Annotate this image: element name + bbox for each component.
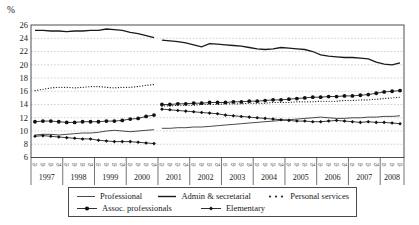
legend-item-personal-services: Personal services [266,191,349,201]
svg-text:2006: 2006 [325,173,341,182]
svg-text:Q1: Q1 [350,162,355,167]
svg-text:Q2: Q2 [263,162,268,167]
svg-text:2008: 2008 [384,173,400,182]
svg-text:Q4: Q4 [183,162,188,167]
svg-text:Q1: Q1 [223,162,228,167]
svg-text:1999: 1999 [102,173,118,182]
svg-text:Q3: Q3 [144,162,149,167]
svg-text:Q2: Q2 [167,162,172,167]
svg-text:Q2: Q2 [72,162,77,167]
svg-text:Q3: Q3 [366,162,371,167]
legend-label-personal-services: Personal services [290,191,349,201]
svg-text:Q1: Q1 [286,162,291,167]
svg-text:Q1: Q1 [64,162,69,167]
legend-label-elementary: Elementary [226,203,265,213]
svg-text:Q4: Q4 [215,162,220,167]
svg-text:Q3: Q3 [334,162,339,167]
svg-text:Q2: Q2 [136,162,141,167]
svg-text:Q2: Q2 [231,162,236,167]
legend-item-professional: Professional [76,191,142,201]
svg-text:Q4: Q4 [279,162,284,167]
svg-text:6: 6 [24,152,28,162]
svg-text:Q3: Q3 [112,162,117,167]
svg-text:2000: 2000 [134,173,150,182]
legend-row-1: Professional Admin & secretarial Persona… [76,191,349,201]
svg-text:Q1: Q1 [382,162,387,167]
svg-text:8: 8 [24,139,28,149]
svg-text:Q2: Q2 [390,162,395,167]
legend-label-assoc-professionals: Assoc. professionals [102,203,172,213]
svg-text:Q2: Q2 [40,162,45,167]
svg-text:Q2: Q2 [104,162,109,167]
svg-text:Q4: Q4 [342,162,347,167]
svg-text:1998: 1998 [71,173,87,182]
svg-text:2004: 2004 [261,173,277,182]
legend: Professional Admin & secretarial Persona… [68,187,357,217]
svg-text:Q3: Q3 [175,162,180,167]
svg-text:Q4: Q4 [120,162,125,167]
occupation-share-chart-figure: % 68101214161820222426Q1Q2Q3Q41997Q1Q2Q3… [0,0,419,225]
legend-item-elementary: Elementary [200,203,265,213]
legend-dotted-line-icon [266,192,286,201]
svg-text:Q3: Q3 [398,162,403,167]
svg-text:18: 18 [20,73,29,83]
svg-text:Q3: Q3 [271,162,276,167]
svg-text:Q3: Q3 [207,162,212,167]
svg-text:Q1: Q1 [96,162,101,167]
svg-text:20: 20 [20,60,29,70]
svg-text:Q3: Q3 [302,162,307,167]
svg-text:1997: 1997 [39,173,55,182]
svg-text:Q3: Q3 [80,162,85,167]
svg-text:Q4: Q4 [88,162,93,167]
svg-text:2001: 2001 [166,173,182,182]
legend-item-assoc-professionals: Assoc. professionals [76,203,172,213]
svg-text:2002: 2002 [198,173,214,182]
legend-circle-marker-line-icon [76,204,98,213]
svg-text:Q1: Q1 [191,162,196,167]
svg-text:Q4: Q4 [374,162,379,167]
svg-text:Q3: Q3 [239,162,244,167]
svg-text:Q1: Q1 [128,162,133,167]
svg-text:Q4: Q4 [247,162,252,167]
svg-text:16: 16 [20,86,29,96]
svg-text:14: 14 [20,99,29,109]
svg-text:Q1: Q1 [160,162,165,167]
svg-text:Q2: Q2 [326,162,331,167]
legend-item-admin-secretarial: Admin & secretarial [157,191,250,201]
svg-text:26: 26 [20,20,29,30]
svg-text:Q2: Q2 [358,162,363,167]
svg-text:Q4: Q4 [310,162,315,167]
svg-text:Q1: Q1 [318,162,323,167]
legend-label-admin-secretarial: Admin & secretarial [181,191,250,201]
svg-text:Q1: Q1 [255,162,260,167]
svg-text:Q3: Q3 [48,162,53,167]
svg-text:Q2: Q2 [199,162,204,167]
svg-text:12: 12 [20,113,29,123]
legend-row-2: Assoc. professionals Elementary [76,203,349,213]
svg-text:Q4: Q4 [56,162,61,167]
legend-solid-line-icon [157,192,177,201]
svg-text:2005: 2005 [293,173,309,182]
legend-label-professional: Professional [100,191,142,201]
legend-diamond-marker-line-icon [200,204,222,213]
svg-text:Q2: Q2 [294,162,299,167]
legend-thin-line-icon [76,192,96,201]
svg-text:24: 24 [20,33,29,43]
svg-text:2003: 2003 [229,173,245,182]
svg-text:10: 10 [20,126,29,136]
svg-text:2007: 2007 [356,173,372,182]
svg-text:22: 22 [20,46,29,56]
svg-text:Q1: Q1 [33,162,38,167]
svg-text:Q4: Q4 [152,162,157,167]
